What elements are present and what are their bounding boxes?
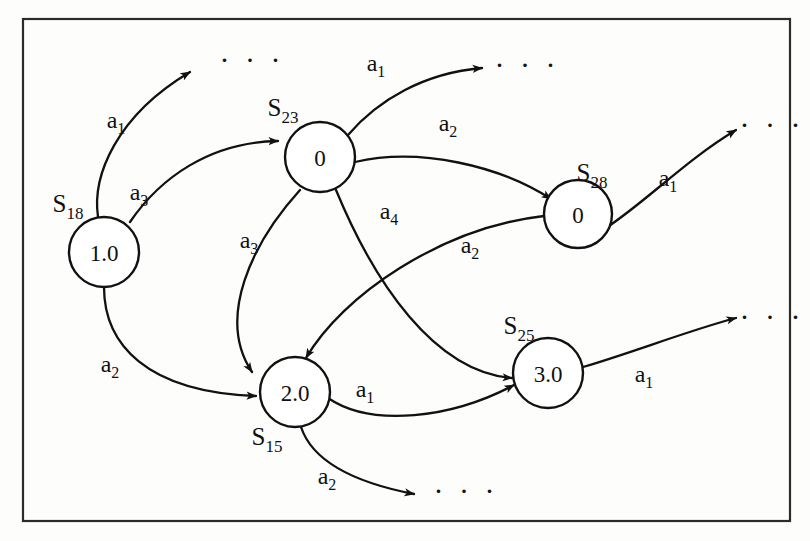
edges-layer xyxy=(97,68,736,494)
edge-s18-to-s15 xyxy=(104,287,256,396)
figure-root: 1.0002.03.0 a1a3a2a1a2a3a4a1a2a1a2a1S18S… xyxy=(0,0,810,541)
ellipsis-ellipsis-top-left: · · · xyxy=(220,43,285,76)
node-value-s15: 2.0 xyxy=(281,381,310,406)
ellipses-layer: · · ·· · ·· · ·· · ·· · · xyxy=(220,43,805,507)
edge-s23-to-ellipsis-top-mid xyxy=(348,68,482,135)
node-label-s23: S23 xyxy=(268,94,299,127)
node-value-s23: 0 xyxy=(314,146,326,171)
ellipsis-ellipsis-top-mid: · · · xyxy=(495,48,560,81)
edge-label-e-s15-a2-out: a2 xyxy=(318,463,337,493)
figure-border xyxy=(23,19,790,521)
edge-label-e-s15-a1-s25: a1 xyxy=(356,376,375,406)
node-label-s25: S25 xyxy=(504,312,535,345)
edge-label-e-s18-a1-out: a1 xyxy=(107,107,126,137)
edge-s25-to-ellipsis-right xyxy=(583,318,736,367)
node-label-s18: S18 xyxy=(53,190,84,223)
node-value-s28: 0 xyxy=(572,203,584,228)
edge-label-e-s23-a4-s25: a4 xyxy=(380,198,399,228)
edge-label-e-s23-a1-out: a1 xyxy=(367,50,386,80)
node-label-s15: S15 xyxy=(252,423,283,456)
edge-label-e-s18-a2-s15: a2 xyxy=(101,351,120,381)
node-s15[interactable]: 2.0 xyxy=(260,357,330,427)
edge-s23-to-s28 xyxy=(355,157,551,199)
ellipsis-ellipsis-top-right: · · · xyxy=(740,108,805,141)
edge-label-e-s25-a1-out: a1 xyxy=(635,361,654,391)
ellipsis-ellipsis-right: · · · xyxy=(740,300,805,333)
ellipsis-ellipsis-bottom: · · · xyxy=(434,474,499,507)
state-transition-diagram: 1.0002.03.0 a1a3a2a1a2a3a4a1a2a1a2a1S18S… xyxy=(0,0,810,541)
edge-label-e-s28-a1-out: a1 xyxy=(659,165,678,195)
node-value-s25: 3.0 xyxy=(534,362,563,387)
edge-label-e-s28-a2-s15: a2 xyxy=(461,232,480,262)
node-s18[interactable]: 1.0 xyxy=(69,217,139,287)
edge-s23-to-s25 xyxy=(336,190,512,378)
edge-s18-to-s23 xyxy=(130,141,278,222)
node-value-s18: 1.0 xyxy=(90,241,119,266)
edge-s23-to-s15 xyxy=(237,190,300,372)
edge-label-e-s18-a3-s23: a3 xyxy=(130,179,149,209)
edge-label-e-s23-a2-s28: a2 xyxy=(439,110,458,140)
node-s25[interactable]: 3.0 xyxy=(513,338,583,408)
node-s23[interactable]: 0 xyxy=(285,122,355,192)
edge-label-e-s23-a3-s15: a3 xyxy=(240,227,259,257)
nodes-layer: 1.0002.03.0 xyxy=(69,122,612,427)
